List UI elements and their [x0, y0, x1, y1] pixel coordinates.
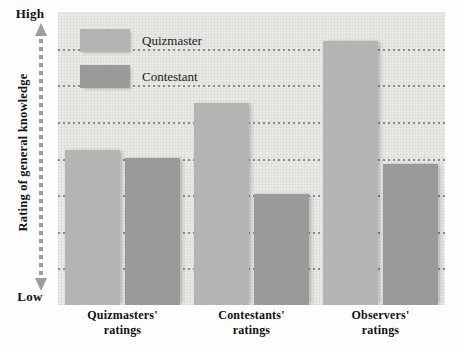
- legend-swatch-contestant: [80, 65, 130, 88]
- x-axis-label-line2: ratings: [316, 323, 445, 338]
- y-axis-title: Rating of general knowledge: [16, 38, 31, 268]
- x-axis-label-1: Contestants'ratings: [187, 308, 316, 338]
- x-axis-label-line1: Quizmasters': [87, 308, 157, 322]
- x-axis-label-2: Observers'ratings: [316, 308, 445, 338]
- legend-swatch-quizmaster: [80, 29, 130, 52]
- x-axis-label-line1: Contestants': [218, 308, 284, 322]
- x-axis-label-line2: ratings: [187, 323, 316, 338]
- x-axis-label-line1: Observers': [352, 308, 410, 322]
- y-axis-min-label: Low: [5, 289, 55, 305]
- bar-chart: High: [0, 0, 458, 353]
- y-axis-double-arrow-icon: [34, 23, 48, 291]
- y-axis: High: [0, 0, 58, 353]
- legend-label-quizmaster: Quizmaster: [142, 33, 202, 49]
- x-axis-label-0: Quizmasters'ratings: [58, 308, 187, 338]
- legend: Quizmaster Contestant: [58, 12, 445, 305]
- plot-area: Quizmaster Contestant: [58, 12, 445, 305]
- y-axis-max-label: High: [5, 6, 55, 22]
- x-axis-label-line2: ratings: [58, 323, 187, 338]
- x-axis-labels: Quizmasters'ratingsContestants'ratingsOb…: [58, 308, 445, 353]
- legend-label-contestant: Contestant: [142, 69, 198, 85]
